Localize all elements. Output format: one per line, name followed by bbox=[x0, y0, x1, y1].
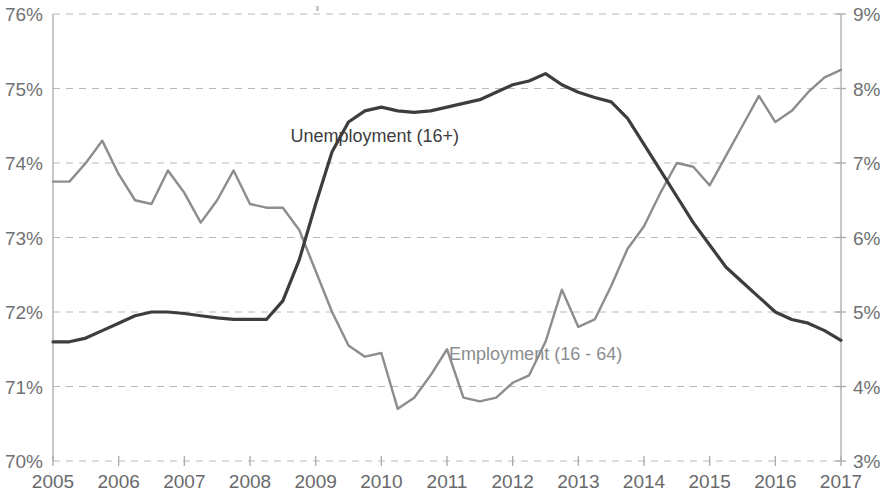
unemployment-series-line bbox=[53, 74, 841, 342]
y-axis-right-tick-label: 7% bbox=[853, 153, 881, 174]
x-axis-tick-label: 2013 bbox=[557, 471, 599, 492]
y-axis-right-tick-label: 6% bbox=[853, 228, 881, 249]
scan-artifact-speck bbox=[316, 6, 319, 11]
series-group bbox=[53, 70, 841, 409]
y-axis-left-tick-label: 75% bbox=[5, 79, 43, 100]
y-axis-right-tick-label: 9% bbox=[853, 4, 881, 25]
x-axis-tick-label: 2011 bbox=[427, 471, 468, 492]
y-axis-right-tick-label: 5% bbox=[853, 302, 881, 323]
x-axis-tick-label: 2014 bbox=[623, 471, 666, 492]
x-axis-tick-label: 2007 bbox=[163, 471, 205, 492]
x-axis-tick-label: 2012 bbox=[492, 471, 534, 492]
y-axis-right-tick-label: 4% bbox=[853, 377, 881, 398]
axis-labels-group: 70%71%72%73%74%75%76%3%4%5%6%7%8%9%20052… bbox=[5, 4, 881, 492]
axes-group bbox=[53, 14, 846, 466]
y-axis-right-tick-label: 3% bbox=[853, 451, 881, 472]
employment-series-label: Employment (16 - 64) bbox=[449, 344, 622, 364]
y-axis-left-tick-label: 71% bbox=[5, 377, 43, 398]
employment-unemployment-line-chart: 70%71%72%73%74%75%76%3%4%5%6%7%8%9%20052… bbox=[0, 0, 888, 495]
y-axis-left-tick-label: 76% bbox=[5, 4, 43, 25]
gridlines-group bbox=[53, 14, 841, 461]
y-axis-left-tick-label: 72% bbox=[5, 302, 43, 323]
chart-container: 70%71%72%73%74%75%76%3%4%5%6%7%8%9%20052… bbox=[0, 0, 888, 495]
x-axis-tick-label: 2006 bbox=[98, 471, 140, 492]
x-axis-tick-label: 2017 bbox=[820, 471, 862, 492]
unemployment-series-label: Unemployment (16+) bbox=[290, 126, 459, 146]
y-axis-left-tick-label: 74% bbox=[5, 153, 43, 174]
x-axis-tick-label: 2008 bbox=[229, 471, 271, 492]
x-axis-tick-label: 2005 bbox=[32, 471, 74, 492]
x-axis-tick-label: 2010 bbox=[360, 471, 402, 492]
x-axis-tick-label: 2016 bbox=[754, 471, 796, 492]
y-axis-left-tick-label: 70% bbox=[5, 451, 43, 472]
employment-series-line bbox=[53, 70, 841, 409]
x-axis-tick-label: 2009 bbox=[295, 471, 337, 492]
x-axis-tick-label: 2015 bbox=[689, 471, 731, 492]
y-axis-left-tick-label: 73% bbox=[5, 228, 43, 249]
y-axis-right-tick-label: 8% bbox=[853, 79, 881, 100]
